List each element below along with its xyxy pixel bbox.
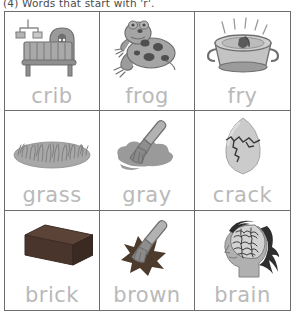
grid-cell-gray[interactable]: gray <box>100 111 195 210</box>
grass-icon <box>5 113 99 181</box>
grid-cell-crib[interactable]: crib <box>5 12 100 111</box>
grid-cell-brain[interactable]: brain <box>195 211 290 310</box>
word-label: crib <box>5 84 99 108</box>
gray-paint-icon <box>100 113 194 181</box>
word-label: frog <box>100 84 194 108</box>
cracked-egg-icon <box>195 113 290 181</box>
word-label: brick <box>5 283 99 307</box>
brain-head-icon <box>195 213 290 281</box>
grid-cell-brick[interactable]: brick <box>5 211 100 310</box>
grid-cell-frog[interactable]: frog <box>100 12 195 111</box>
word-label: fry <box>195 84 290 108</box>
grid-cell-grass[interactable]: grass <box>5 111 100 210</box>
brick-icon <box>5 213 99 281</box>
worksheet-heading: (4) Words that start with 'r'. <box>3 0 297 10</box>
frog-icon <box>100 14 194 82</box>
worksheet: (4) Words that start with 'r'. <box>0 0 301 322</box>
grid-cell-brown[interactable]: brown <box>100 211 195 310</box>
frying-pan-icon <box>195 14 290 82</box>
word-label: grass <box>5 183 99 207</box>
brown-paint-icon <box>100 213 194 281</box>
grid-cell-crack[interactable]: crack <box>195 111 290 210</box>
picture-word-grid: crib <box>4 11 291 311</box>
word-label: gray <box>100 183 194 207</box>
crib-icon <box>5 14 99 82</box>
word-label: crack <box>195 183 290 207</box>
word-label: brain <box>195 283 290 307</box>
grid-cell-fry[interactable]: fry <box>195 12 290 111</box>
word-label: brown <box>100 283 194 307</box>
